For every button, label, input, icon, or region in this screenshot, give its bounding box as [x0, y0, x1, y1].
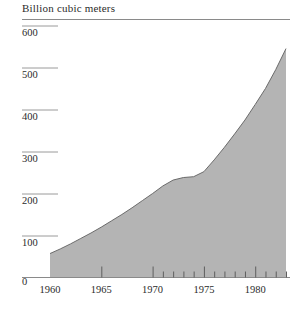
x-axis-tick-label: 1980 — [245, 284, 266, 295]
area-series-fill — [50, 49, 286, 278]
y-axis-tick-label: 200 — [22, 195, 38, 206]
y-axis-tick-label: 500 — [22, 69, 38, 80]
x-axis-tick-label: 1975 — [193, 284, 214, 295]
y-axis-tick-label: 600 — [22, 27, 38, 38]
y-axis-tick-label: 300 — [22, 153, 38, 164]
x-axis-tick-label: 1970 — [142, 284, 163, 295]
chart-container: Billion cubic meters 100200300400500600 … — [0, 0, 298, 309]
y-axis-zero-label: 0 — [22, 276, 27, 287]
y-axis-tick-label: 400 — [22, 111, 38, 122]
x-axis-tick-label: 1960 — [40, 284, 61, 295]
chart-plot-area — [0, 0, 298, 309]
y-axis-tick-label: 100 — [22, 237, 38, 248]
x-axis-tick-label: 1965 — [91, 284, 112, 295]
